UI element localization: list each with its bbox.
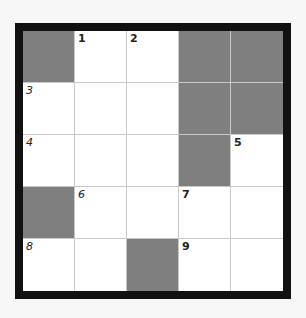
answer-cell[interactable]: [127, 135, 179, 187]
answer-cell[interactable]: 6: [75, 187, 127, 239]
answer-cell[interactable]: 5: [231, 135, 283, 187]
block-cell: [127, 239, 179, 291]
block-cell: [23, 31, 75, 83]
clue-number: 3: [26, 84, 33, 97]
clue-number: 1: [78, 32, 86, 45]
answer-cell[interactable]: 1: [75, 31, 127, 83]
answer-cell[interactable]: 4: [23, 135, 75, 187]
block-cell: [231, 31, 283, 83]
block-cell: [179, 83, 231, 135]
clue-number: 5: [234, 136, 242, 149]
crossword-frame: 123456789: [15, 23, 291, 299]
answer-cell[interactable]: 9: [179, 239, 231, 291]
answer-cell[interactable]: [231, 239, 283, 291]
answer-cell[interactable]: [127, 83, 179, 135]
block-cell: [231, 83, 283, 135]
clue-number: 2: [130, 32, 138, 45]
answer-cell[interactable]: [231, 187, 283, 239]
answer-cell[interactable]: 3: [23, 83, 75, 135]
clue-number: 6: [78, 188, 85, 201]
block-cell: [23, 187, 75, 239]
answer-cell[interactable]: 7: [179, 187, 231, 239]
answer-cell[interactable]: [75, 135, 127, 187]
clue-number: 7: [182, 188, 190, 201]
answer-cell[interactable]: [75, 83, 127, 135]
clue-number: 4: [26, 136, 33, 149]
answer-cell[interactable]: [75, 239, 127, 291]
answer-cell[interactable]: 2: [127, 31, 179, 83]
answer-cell[interactable]: [127, 187, 179, 239]
clue-number: 8: [26, 240, 33, 253]
crossword-grid: 123456789: [23, 31, 283, 291]
clue-number: 9: [182, 240, 190, 253]
block-cell: [179, 31, 231, 83]
answer-cell[interactable]: 8: [23, 239, 75, 291]
block-cell: [179, 135, 231, 187]
